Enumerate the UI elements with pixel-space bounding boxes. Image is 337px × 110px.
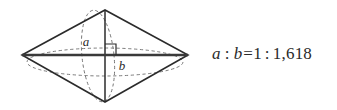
formula-right-value: 1,618 [273,44,312,64]
formula-colon-1: : [222,44,233,64]
right-angle-icon [105,44,116,55]
formula-colon-2: : [262,44,273,64]
golden-ratio-formula: a : b = 1 : 1,618 [211,41,333,67]
formula-left-value: 1 [253,44,262,64]
formula-right-var: b [233,44,244,64]
label-a: a [83,34,90,49]
figure-root: a b a : b = 1 : 1,618 [0,0,337,110]
formula-equals: = [243,44,253,64]
label-b: b [119,58,126,73]
formula-left-var: a [211,44,222,64]
